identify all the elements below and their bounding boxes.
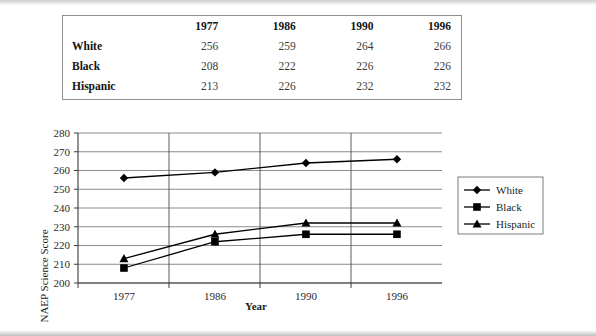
table-col-header-1996: 1996	[383, 16, 461, 36]
chart-legend[interactable]: WhiteBlackHispanic	[458, 177, 543, 234]
y-tick-label-280: 280	[54, 127, 71, 139]
row-label-white: White	[63, 36, 151, 56]
y-axis-tick-group: 200210220230240250260270280	[54, 127, 79, 289]
cell-hispanic-1977: 213	[151, 76, 229, 96]
row-label-hispanic: Hispanic	[63, 76, 151, 96]
scan-artifact-bottom-band	[0, 330, 596, 336]
cell-black-1990: 226	[306, 56, 384, 76]
data-point-black-1996	[393, 230, 401, 238]
y-tick-label-200: 200	[54, 277, 71, 289]
chart-plot-area: 200210220230240250260270280 197719861990…	[0, 118, 596, 318]
x-tick-label-1996: 1996	[386, 290, 409, 302]
data-point-black-1990	[302, 230, 310, 238]
cell-black-1996: 226	[383, 56, 461, 76]
y-tick-label-220: 220	[54, 239, 71, 251]
cell-white-1977: 256	[151, 36, 229, 56]
y-tick-label-230: 230	[54, 221, 71, 233]
legend-label-black: Black	[496, 201, 522, 213]
row-label-black: Black	[63, 56, 151, 76]
scan-artifact-top-band	[0, 0, 596, 5]
cell-black-1977: 208	[151, 56, 229, 76]
table-row: Black 208 222 226 226	[63, 56, 461, 76]
data-point-white-1996	[393, 155, 401, 163]
legend-marker-black	[473, 203, 481, 211]
data-point-white-1990	[302, 159, 310, 167]
table-col-header-1977: 1977	[151, 16, 229, 36]
y-tick-label-240: 240	[54, 202, 71, 214]
y-tick-label-210: 210	[54, 258, 71, 270]
cell-hispanic-1986: 226	[228, 76, 306, 96]
cell-white-1996: 266	[383, 36, 461, 56]
cell-hispanic-1990: 232	[306, 76, 384, 96]
cell-hispanic-1996: 232	[383, 76, 461, 96]
legend-label-white: White	[496, 184, 523, 196]
table-row: White 256 259 264 266	[63, 36, 461, 56]
data-point-black-1977	[120, 264, 128, 272]
naep-line-chart: NAEP Science Score Year 2002102202302402…	[0, 118, 596, 330]
table-header-row: 1977 1986 1990 1996	[63, 16, 461, 36]
x-tick-label-1977: 1977	[113, 290, 136, 302]
cell-black-1986: 222	[228, 56, 306, 76]
cell-white-1986: 259	[228, 36, 306, 56]
naep-data-table: 1977 1986 1990 1996 White 256 259 264 26…	[62, 15, 462, 100]
table-row: Hispanic 213 226 232 232	[63, 76, 461, 96]
y-tick-label-270: 270	[54, 146, 71, 158]
series-line-white	[124, 159, 397, 178]
x-tick-label-1986: 1986	[204, 290, 227, 302]
table-col-header-1986: 1986	[228, 16, 306, 36]
table-corner-header	[63, 16, 151, 36]
legend-label-hispanic: Hispanic	[496, 218, 535, 230]
y-tick-label-250: 250	[54, 183, 71, 195]
series-line-hispanic	[124, 223, 397, 259]
cell-white-1990: 264	[306, 36, 384, 56]
data-point-white-1977	[120, 174, 128, 182]
data-series-group	[119, 155, 401, 272]
table-col-header-1990: 1990	[306, 16, 384, 36]
data-point-white-1986	[211, 168, 219, 176]
x-tick-label-1990: 1990	[295, 290, 318, 302]
y-tick-label-260: 260	[54, 164, 71, 176]
data-point-black-1986	[211, 238, 219, 246]
x-axis-tick-group: 1977198619901996	[78, 283, 408, 302]
series-line-black	[124, 234, 397, 268]
